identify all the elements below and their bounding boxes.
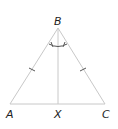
label-a: A xyxy=(5,108,14,121)
label-c: C xyxy=(102,108,110,121)
angle-tick-right xyxy=(63,42,65,47)
angle-tick-left xyxy=(51,42,53,47)
label-b: B xyxy=(54,15,62,28)
side-ab xyxy=(10,28,58,104)
side-bc xyxy=(58,28,105,104)
triangle-diagram: B A X C xyxy=(0,0,118,129)
label-x: X xyxy=(53,108,62,121)
